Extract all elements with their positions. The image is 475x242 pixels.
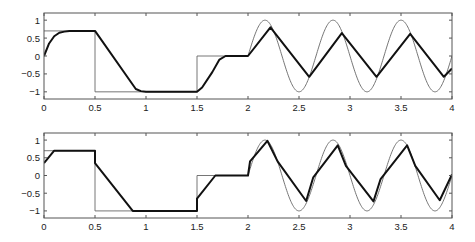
x-tick-label: 1.5 [190, 102, 203, 113]
output-line [44, 141, 452, 211]
x-tick-label: 0 [41, 102, 46, 113]
figure-canvas: 00.511.522.533.5410.50−0.5−1 00.511.522.… [0, 0, 475, 242]
output-line [44, 27, 452, 92]
x-tick-label: 1 [143, 221, 148, 232]
x-tick-label: 3.5 [394, 221, 407, 232]
x-tick-label: 1 [143, 102, 148, 113]
y-tick-label: 1 [35, 15, 40, 26]
y-tick-label: −0.5 [21, 188, 40, 199]
y-tick-label: 0.5 [27, 33, 40, 44]
y-tick-label: −1 [29, 86, 40, 97]
y-tick-label: 0 [35, 51, 40, 62]
x-tick-label: 3.5 [394, 102, 407, 113]
x-tick-label: 0.5 [88, 221, 101, 232]
x-tick-label: 4 [449, 221, 454, 232]
y-tick-label: 0.5 [27, 152, 40, 163]
top-subplot: 00.511.522.533.5410.50−0.5−1 [21, 13, 454, 113]
x-tick-label: 2.5 [292, 221, 305, 232]
x-tick-label: 4 [449, 102, 454, 113]
x-tick-label: 1.5 [190, 221, 203, 232]
x-tick-label: 2 [245, 102, 250, 113]
y-tick-label: 0 [35, 170, 40, 181]
x-tick-label: 0 [41, 221, 46, 232]
plot-area [44, 20, 452, 92]
plot-area [44, 140, 452, 211]
y-tick-label: 1 [35, 135, 40, 146]
y-tick-label: −0.5 [21, 68, 40, 79]
x-tick-label: 0.5 [88, 102, 101, 113]
x-tick-label: 2 [245, 221, 250, 232]
x-tick-label: 3 [347, 102, 352, 113]
bottom-subplot: 00.511.522.533.5410.50−0.5−1 [21, 133, 454, 232]
x-tick-label: 2.5 [292, 102, 305, 113]
y-tick-label: −1 [29, 205, 40, 216]
x-tick-label: 3 [347, 221, 352, 232]
figure: 00.511.522.533.5410.50−0.5−1 00.511.522.… [0, 0, 475, 242]
